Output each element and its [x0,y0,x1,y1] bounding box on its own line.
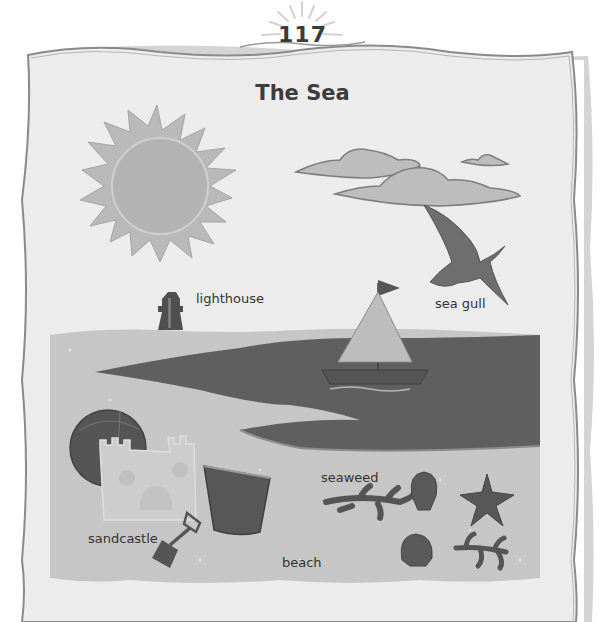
label-beach: beach [282,555,322,570]
label-lighthouse: lighthouse [196,291,264,306]
label-sandcastle: sandcastle [88,531,158,546]
page-number: 117 [0,22,605,47]
label-sea-gull: sea gull [435,296,486,311]
bucket-icon [204,466,270,535]
page-title: The Sea [0,81,605,105]
label-seaweed: seaweed [321,470,379,485]
